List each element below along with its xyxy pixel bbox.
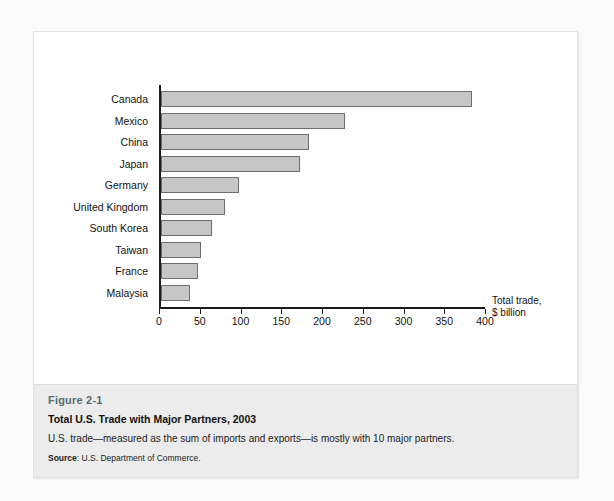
- bar-row: [161, 197, 561, 219]
- tick-label: 100: [232, 315, 250, 327]
- tick-label: 150: [272, 315, 290, 327]
- bar: [161, 156, 300, 172]
- figure-description: U.S. trade—measured as the sum of import…: [48, 433, 563, 444]
- bar: [161, 91, 472, 107]
- tick-mark: [281, 309, 282, 314]
- bar: [161, 263, 198, 279]
- bar-row: [161, 111, 561, 133]
- category-label: Japan: [34, 154, 154, 176]
- bar-row: [161, 240, 561, 262]
- category-label: China: [34, 132, 154, 154]
- tick-mark: [363, 309, 364, 314]
- figure-source: Source: U.S. Department of Commerce.: [48, 453, 563, 463]
- bar: [161, 199, 225, 215]
- bar-row: [161, 132, 561, 154]
- x-axis-title: Total trade, $ billion: [492, 295, 541, 318]
- figure-container: CanadaMexicoChinaJapanGermanyUnited King…: [33, 31, 578, 478]
- tick-mark: [159, 309, 160, 314]
- chart-area: CanadaMexicoChinaJapanGermanyUnited King…: [34, 32, 577, 384]
- bar: [161, 113, 345, 129]
- category-label: Germany: [34, 175, 154, 197]
- tick-mark: [241, 309, 242, 314]
- category-label: Mexico: [34, 111, 154, 133]
- category-label: Canada: [34, 89, 154, 111]
- tick-mark: [444, 309, 445, 314]
- tick-label: 250: [354, 315, 372, 327]
- source-text: : U.S. Department of Commerce.: [77, 453, 201, 463]
- category-label: France: [34, 261, 154, 283]
- x-axis-title-line1: Total trade,: [492, 295, 541, 307]
- bar: [161, 134, 309, 150]
- bar-row: [161, 218, 561, 240]
- bar: [161, 285, 190, 301]
- bar: [161, 242, 201, 258]
- bar-chart-plot: CanadaMexicoChinaJapanGermanyUnited King…: [34, 32, 577, 384]
- tick-label: 50: [194, 315, 206, 327]
- category-label: Malaysia: [34, 283, 154, 305]
- tick-label: 350: [435, 315, 453, 327]
- tick-mark: [200, 309, 201, 314]
- tick-mark: [322, 309, 323, 314]
- tick-mark: [485, 309, 486, 314]
- bar-row: [161, 89, 561, 111]
- x-axis-ticks: 050100150200250300350400: [159, 309, 489, 333]
- bar-row: [161, 261, 561, 283]
- x-axis-title-line2: $ billion: [492, 307, 541, 319]
- tick-mark: [404, 309, 405, 314]
- figure-title: Total U.S. Trade with Major Partners, 20…: [48, 413, 563, 425]
- category-label: Taiwan: [34, 240, 154, 262]
- tick-label: 300: [395, 315, 413, 327]
- bar: [161, 220, 212, 236]
- bar-series: [161, 89, 561, 304]
- page-root: CanadaMexicoChinaJapanGermanyUnited King…: [0, 0, 614, 501]
- bar-row: [161, 154, 561, 176]
- figure-caption: Figure 2-1 Total U.S. Trade with Major P…: [34, 384, 577, 477]
- figure-number: Figure 2-1: [48, 394, 563, 406]
- category-label: South Korea: [34, 218, 154, 240]
- category-axis-labels: CanadaMexicoChinaJapanGermanyUnited King…: [34, 89, 154, 304]
- tick-label: 200: [313, 315, 331, 327]
- category-label: United Kingdom: [34, 197, 154, 219]
- tick-label: 0: [156, 315, 162, 327]
- source-label: Source: [48, 453, 77, 463]
- bar: [161, 177, 239, 193]
- bar-row: [161, 175, 561, 197]
